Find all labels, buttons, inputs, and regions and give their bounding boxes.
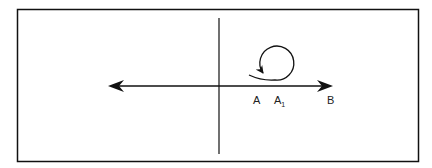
label-a1: A1	[274, 94, 285, 108]
label-a: A	[253, 94, 261, 106]
rotation-loop-arrow	[249, 46, 294, 80]
label-b: B	[327, 94, 334, 106]
diagram: A A1 B	[0, 0, 432, 168]
